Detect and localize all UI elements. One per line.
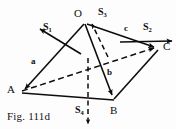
normal-label-S1-base: S xyxy=(43,21,49,32)
normal-label-S1: S1 xyxy=(43,22,52,32)
figure-111d: O A B C a b c S1 S2 S3 S4 Fig. 111d xyxy=(0,0,176,129)
normal-label-S2-sub: 2 xyxy=(149,26,152,33)
vertex-label-O: O xyxy=(74,8,82,19)
normal-label-S1-sub: 1 xyxy=(49,26,52,33)
normal-label-S2-base: S xyxy=(143,21,149,32)
normal-label-S2: S2 xyxy=(143,22,152,32)
vertex-label-B: B xyxy=(110,105,117,116)
vertex-label-C: C xyxy=(163,41,170,52)
normal-label-S3-base: S xyxy=(98,6,104,17)
vector-label-b: b xyxy=(107,68,112,77)
normal-label-S3: S3 xyxy=(98,7,107,17)
vertex-label-A: A xyxy=(7,84,15,95)
edge-AB xyxy=(22,93,114,100)
normal-label-S4-base: S xyxy=(75,104,81,115)
edge-OB xyxy=(85,24,112,95)
normal-label-S4-sub: 4 xyxy=(81,109,84,116)
vector-label-c: c xyxy=(124,24,128,33)
normal-label-S3-sub: 3 xyxy=(104,11,107,18)
vector-label-a: a xyxy=(31,57,36,66)
edge-BC xyxy=(114,50,158,99)
normal-label-S4: S4 xyxy=(75,105,84,115)
figure-caption: Fig. 111d xyxy=(7,110,50,122)
